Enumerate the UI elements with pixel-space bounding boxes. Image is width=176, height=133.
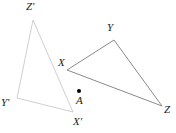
vertex-label-x: X <box>58 57 65 68</box>
vertex-label-z: Z <box>164 104 170 115</box>
center-of-rotation-point <box>77 89 81 93</box>
geometry-figure: Z' Y X Y' A X' Z <box>0 0 176 133</box>
point-label-a: A <box>76 95 83 106</box>
vertex-label-z-prime: Z' <box>26 1 34 12</box>
figure-canvas <box>0 0 176 133</box>
vertex-label-x-prime: X' <box>73 116 82 127</box>
vertex-label-y-prime: Y' <box>1 97 9 108</box>
vertex-label-y: Y <box>107 22 113 33</box>
